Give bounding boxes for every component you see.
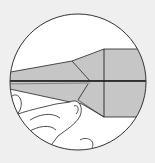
origami-diagram (0, 0, 155, 163)
